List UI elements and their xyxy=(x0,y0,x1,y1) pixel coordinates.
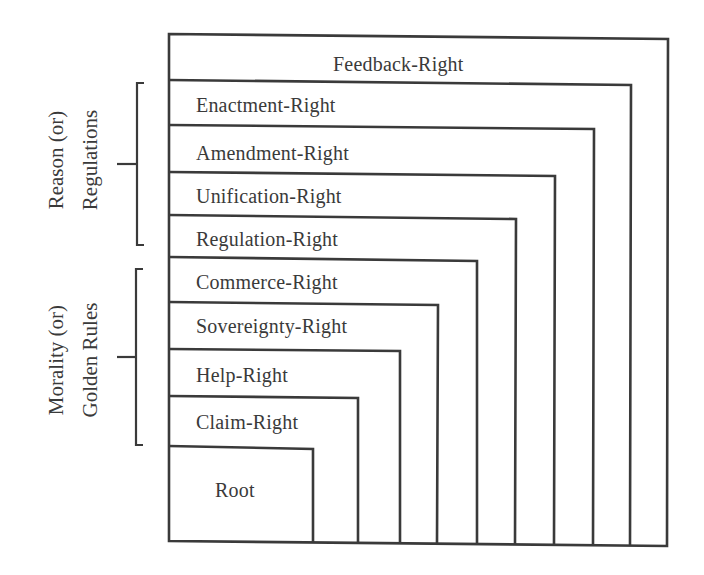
group-label-morality-line2: Golden Rules xyxy=(73,303,107,418)
label-feedback-right: Feedback-Right xyxy=(333,53,464,75)
group-label-reason-line1: Reason (or) xyxy=(39,110,73,210)
label-help-right: Help-Right xyxy=(196,364,288,386)
label-claim-right: Claim-Right xyxy=(196,411,298,433)
label-regulation-right: Regulation-Right xyxy=(196,228,338,250)
label-unification-right: Unification-Right xyxy=(196,185,342,207)
group-label-reason-line2: Regulations xyxy=(73,110,107,210)
nested-rights-diagram xyxy=(0,0,704,575)
label-amendment-right: Amendment-Right xyxy=(196,142,349,164)
label-root: Root xyxy=(215,479,255,501)
group-label-morality: Morality (or) Golden Rules xyxy=(39,303,107,418)
bracket-morality xyxy=(117,269,143,445)
group-label-morality-line1: Morality (or) xyxy=(39,303,73,418)
group-label-reason: Reason (or) Regulations xyxy=(39,110,107,210)
label-commerce-right: Commerce-Right xyxy=(196,271,338,293)
label-enactment-right: Enactment-Right xyxy=(196,94,336,116)
bracket-reason xyxy=(117,83,144,245)
label-sovereignty-right: Sovereignty-Right xyxy=(196,315,347,337)
